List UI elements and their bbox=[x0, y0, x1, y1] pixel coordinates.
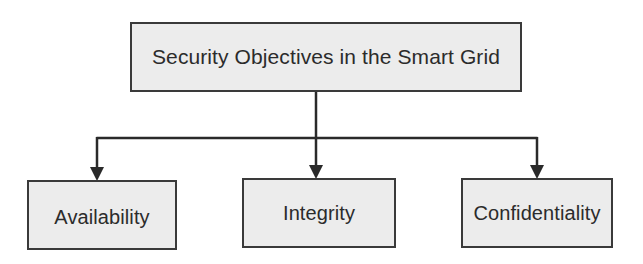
root-node-label: Security Objectives in the Smart Grid bbox=[152, 45, 500, 69]
child-node-label: Integrity bbox=[283, 202, 355, 225]
diagram-canvas: Security Objectives in the Smart Grid Av… bbox=[0, 0, 643, 264]
child-node-integrity: Integrity bbox=[242, 178, 396, 248]
root-node-security-objectives: Security Objectives in the Smart Grid bbox=[130, 22, 522, 92]
arrowhead-confidentiality bbox=[530, 165, 544, 179]
child-node-availability: Availability bbox=[27, 180, 177, 250]
child-node-confidentiality: Confidentiality bbox=[461, 178, 613, 248]
arrowhead-availability bbox=[90, 167, 104, 181]
child-node-label: Confidentiality bbox=[473, 202, 600, 225]
child-node-label: Availability bbox=[54, 202, 149, 229]
arrowhead-integrity bbox=[309, 165, 323, 179]
